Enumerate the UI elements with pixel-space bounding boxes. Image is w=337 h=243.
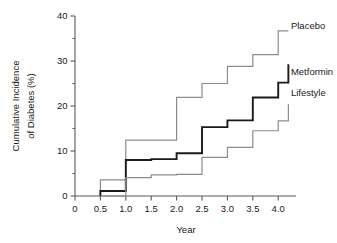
series-line-lifestyle bbox=[100, 104, 288, 196]
x-tick-label: 4.0 bbox=[272, 203, 285, 214]
y-tick-label: 10 bbox=[57, 145, 68, 156]
y-tick-label: 40 bbox=[57, 10, 68, 21]
chart-axes bbox=[75, 16, 296, 196]
x-tick-label: 0.5 bbox=[94, 203, 107, 214]
y-tick-label: 20 bbox=[57, 100, 68, 111]
series-label-placebo: Placebo bbox=[291, 20, 325, 31]
y-tick-label: 30 bbox=[57, 55, 68, 66]
series-label-metformin: Metformin bbox=[291, 66, 333, 77]
y-axis-title-line-2: of Diabetes (%) bbox=[25, 73, 36, 138]
x-axis-tick-labels: 00.51.01.52.02.53.03.54.0 bbox=[72, 203, 284, 214]
y-tick-label: 0 bbox=[62, 190, 67, 201]
x-tick-label: 0 bbox=[72, 203, 77, 214]
y-axis-tick-labels: 010203040 bbox=[57, 10, 68, 201]
x-axis-title: Year bbox=[176, 224, 195, 235]
series-labels: PlaceboMetforminLifestyle bbox=[291, 20, 333, 98]
chart-container: 010203040 00.51.01.52.02.53.03.54.0 Plac… bbox=[0, 0, 337, 243]
y-axis-title-line-1: Cumulative Incidence bbox=[10, 61, 21, 152]
series-label-lifestyle: Lifestyle bbox=[291, 87, 326, 98]
x-tick-label: 1.0 bbox=[119, 203, 132, 214]
series-line-placebo bbox=[100, 31, 288, 196]
x-tick-label: 3.0 bbox=[221, 203, 234, 214]
x-tick-label: 2.5 bbox=[195, 203, 208, 214]
chart-series bbox=[100, 31, 288, 196]
x-tick-label: 1.5 bbox=[145, 203, 158, 214]
y-axis-ticks bbox=[71, 16, 76, 196]
x-tick-label: 2.0 bbox=[170, 203, 183, 214]
cumulative-incidence-step-chart: 010203040 00.51.01.52.02.53.03.54.0 Plac… bbox=[0, 0, 337, 243]
series-line-metformin bbox=[100, 64, 288, 196]
x-tick-label: 3.5 bbox=[246, 203, 259, 214]
x-axis-ticks bbox=[75, 196, 278, 201]
